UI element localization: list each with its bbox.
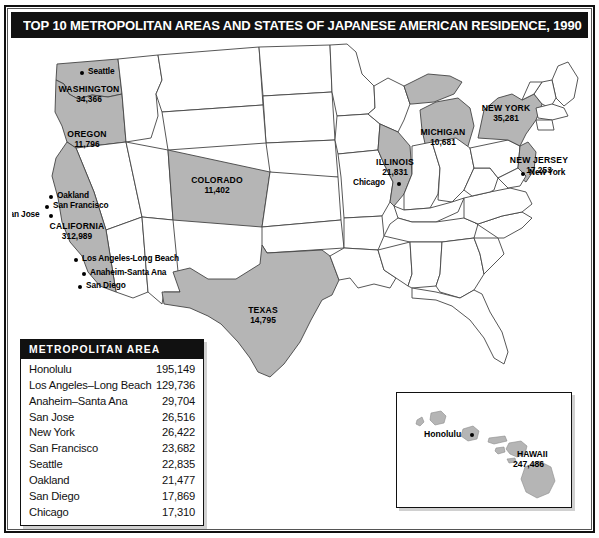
value-texas: 14,795 <box>232 316 294 325</box>
city-dot-honolulu <box>470 433 474 437</box>
label-washington: WASHINGTON <box>50 85 128 94</box>
label-illinois: ILLINOIS <box>362 158 428 167</box>
city-label-chicago: Chicago <box>353 178 385 187</box>
metro-value: 195,149 <box>156 362 195 377</box>
map-title-bar: TOP 10 METROPOLITAN AREAS AND STATES OF … <box>11 12 588 38</box>
metro-value: 26,516 <box>162 410 195 425</box>
metro-value: 17,869 <box>162 489 195 504</box>
hawaii-inset: Honolulu HAWAII 247,486 <box>396 392 572 508</box>
metro-name: Anaheim–Santa Ana <box>29 394 128 409</box>
metro-name: New York <box>29 425 75 440</box>
metropolitan-area-table: METROPOLITAN AREA Honolulu 195,149 Los A… <box>20 339 204 526</box>
metro-value: 26,422 <box>162 425 195 440</box>
city-dot-san-francisco <box>45 205 49 209</box>
table-row: San Diego 17,869 <box>29 489 195 505</box>
value-newyork: 35,281 <box>472 114 540 123</box>
metro-value: 129,736 <box>156 378 195 393</box>
metro-name: Oakland <box>29 473 69 488</box>
table-body: Honolulu 195,149 Los Angeles–Long Beach … <box>21 359 203 525</box>
metro-name: Los Angeles–Long Beach <box>29 378 152 393</box>
value-california: 312,989 <box>40 232 114 241</box>
value-illinois: 21,831 <box>362 168 428 177</box>
table-row: Anaheim–Santa Ana 29,704 <box>29 393 195 409</box>
city-dot-chicago <box>397 182 401 186</box>
label-michigan: MICHIGAN <box>406 128 480 137</box>
table-row: Oakland 21,477 <box>29 473 195 489</box>
metro-value: 22,835 <box>162 457 195 472</box>
city-label-honolulu: Honolulu <box>424 429 461 439</box>
city-label-anaheim: Anaheim-Santa Ana <box>90 268 166 277</box>
metro-value: 17,310 <box>162 505 195 520</box>
label-newjersey: NEW JERSEY <box>498 156 580 165</box>
metro-name: Honolulu <box>29 362 72 377</box>
city-label-new-york: New York <box>529 168 565 177</box>
city-dot-oakland <box>49 195 53 199</box>
table-row: Seattle 22,835 <box>29 457 195 473</box>
value-colorado: 11,402 <box>180 186 254 195</box>
table-row: Chicago 17,310 <box>29 505 195 521</box>
table-row: San Francisco 23,682 <box>29 441 195 457</box>
island-kauai <box>430 411 446 425</box>
metro-name: San Francisco <box>29 441 98 456</box>
value-washington: 34,366 <box>50 95 128 104</box>
label-oregon: OREGON <box>54 130 120 139</box>
metro-value: 23,682 <box>162 441 195 456</box>
metro-name: Chicago <box>29 505 69 520</box>
city-label-los-angeles: Los Angeles-Long Beach <box>82 254 179 263</box>
metro-value: 21,477 <box>162 473 195 488</box>
city-label-san-jose: San Jose <box>12 210 40 219</box>
page-title: TOP 10 METROPOLITAN AREAS AND STATES OF … <box>23 18 582 33</box>
value-hawaii: 247,486 <box>513 459 544 469</box>
city-label-san-francisco: San Francisco <box>53 201 108 210</box>
table-row: New York 26,422 <box>29 425 195 441</box>
label-california: CALIFORNIA <box>40 222 114 231</box>
label-hawaii: HAWAII <box>517 449 548 459</box>
island-molokai <box>488 436 507 444</box>
city-dot-san-jose <box>49 214 53 218</box>
city-label-san-diego: San Diego <box>86 281 126 290</box>
metro-value: 29,704 <box>162 394 195 409</box>
island-lanai <box>495 447 505 454</box>
value-michigan: 10,681 <box>406 138 480 147</box>
city-dot-los-angeles <box>74 258 78 262</box>
label-texas: TEXAS <box>232 306 294 315</box>
metro-name: Seattle <box>29 457 62 472</box>
metro-name: San Diego <box>29 489 79 504</box>
island-niihau <box>416 417 424 426</box>
label-newyork: NEW YORK <box>472 104 540 113</box>
value-oregon: 11,796 <box>54 140 120 149</box>
city-dot-anaheim <box>82 272 86 276</box>
table-row: San Jose 26,516 <box>29 409 195 425</box>
label-colorado: COLORADO <box>180 176 254 185</box>
table-row: Los Angeles–Long Beach 129,736 <box>29 377 195 393</box>
metro-name: San Jose <box>29 410 74 425</box>
map-page: TOP 10 METROPOLITAN AREAS AND STATES OF … <box>0 0 599 538</box>
city-dot-new-york <box>521 172 525 176</box>
table-row: Honolulu 195,149 <box>29 361 195 377</box>
city-dot-san-diego <box>78 285 82 289</box>
city-label-oakland: Oakland <box>57 191 89 200</box>
city-label-seattle: Seattle <box>88 67 115 76</box>
table-header: METROPOLITAN AREA <box>21 340 203 359</box>
city-dot-seattle <box>80 71 84 75</box>
